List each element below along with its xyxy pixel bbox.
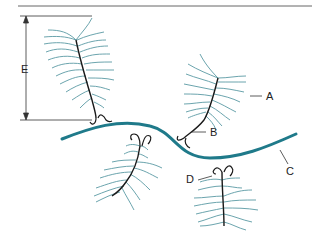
leader-c [280,150,288,164]
label-e: E [21,64,28,75]
barbule-bottom-right [194,166,258,230]
label-b: B [210,127,217,138]
shaft [76,40,96,118]
barbule-diagram [0,0,312,244]
hook [131,134,151,146]
hook [90,115,112,124]
barbule-bottom-left [94,134,162,210]
hook [213,166,233,176]
dimension-e [20,16,92,120]
label-d: D [186,174,194,185]
barbule-top-left [44,18,114,124]
label-c: C [286,166,294,177]
label-a: A [266,91,273,102]
